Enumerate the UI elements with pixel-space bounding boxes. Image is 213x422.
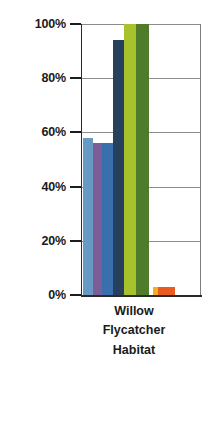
y-axis-tick-mark [70, 294, 81, 296]
bar-olive-green [136, 24, 149, 295]
bar-orange [158, 287, 175, 295]
x-axis-label-line: Flycatcher [64, 321, 204, 340]
x-axis-line [81, 295, 202, 297]
bar-purple [93, 143, 102, 295]
bar-dark-navy [113, 40, 124, 295]
x-axis-label-line: Willow [64, 302, 204, 321]
y-axis-tick-label: 40% [10, 180, 66, 193]
bar-chart: 100%80%60%40%20%0% WillowFlycatcherHabit… [0, 0, 213, 422]
bar-series-group [81, 24, 201, 295]
y-axis-tick-label: 0% [10, 289, 66, 302]
y-axis-tick-mark [70, 131, 81, 133]
x-axis-label-line: Habitat [64, 341, 204, 360]
y-axis-tick-label: 60% [10, 126, 66, 139]
y-axis-tick-mark [70, 23, 81, 25]
bar-yellow-green [124, 24, 136, 295]
bar-medium-blue [102, 143, 113, 295]
y-axis-tick-labels: 100%80%60%40%20%0% [4, 0, 66, 422]
bar-light-blue [83, 138, 93, 295]
y-axis-tick-label: 100% [10, 18, 66, 31]
y-axis-tick-label: 80% [10, 72, 66, 85]
y-axis-tick-mark [70, 240, 81, 242]
y-axis-tick-label: 20% [10, 235, 66, 248]
y-axis-tick-mark [70, 77, 81, 79]
x-axis-label: WillowFlycatcherHabitat [64, 302, 204, 360]
y-axis-tick-mark [70, 186, 81, 188]
